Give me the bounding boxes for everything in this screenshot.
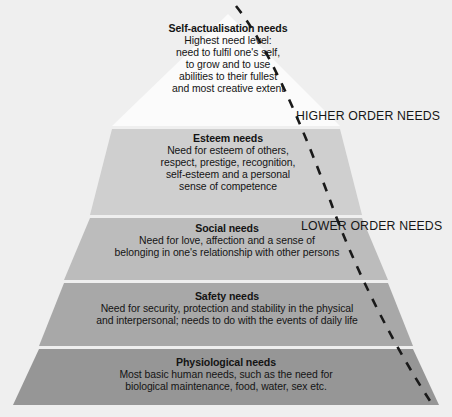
diagram-canvas: Self-actualisation needs Highest need le… bbox=[0, 0, 452, 417]
tier-body-esteem: Need for esteem of others, respect, pres… bbox=[96, 145, 360, 193]
tier-label-esteem: Esteem needs Need for esteem of others, … bbox=[96, 132, 360, 193]
tier-body-social: Need for love, affection and a sense of … bbox=[62, 235, 392, 259]
tier-title-safety: Safety needs bbox=[32, 290, 422, 302]
tier-title-self-actualisation: Self-actualisation needs bbox=[116, 22, 340, 34]
tier-title-esteem: Esteem needs bbox=[96, 132, 360, 144]
tier-label-safety: Safety needs Need for security, protecti… bbox=[32, 290, 422, 327]
tier-title-physiological: Physiological needs bbox=[16, 356, 436, 368]
tier-body-safety: Need for security, protection and stabil… bbox=[32, 303, 422, 327]
lower-order-needs-label: LOWER ORDER NEEDS bbox=[301, 219, 442, 233]
tier-label-self-actualisation: Self-actualisation needs Highest need le… bbox=[116, 22, 340, 95]
higher-order-needs-label: HIGHER ORDER NEEDS bbox=[296, 109, 440, 123]
tier-body-self-actualisation: Highest need level: need to fulfil one's… bbox=[116, 35, 340, 95]
tier-label-physiological: Physiological needs Most basic human nee… bbox=[16, 356, 436, 393]
tier-body-physiological: Most basic human needs, such as the need… bbox=[16, 369, 436, 393]
